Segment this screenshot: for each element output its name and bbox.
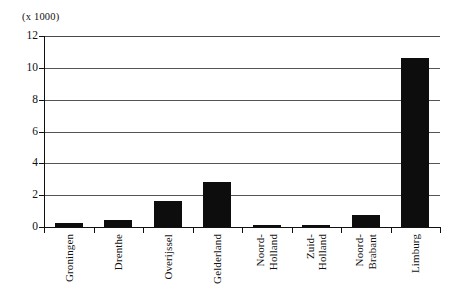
x-category-label: Gelderland <box>193 234 243 307</box>
x-category-label: Noord-Holland <box>242 234 292 307</box>
y-tick-label: 0 <box>32 221 38 233</box>
y-axis-tick-labels: 024681012 <box>0 0 38 307</box>
x-tick-mark <box>44 228 45 233</box>
x-tick-mark <box>242 228 243 233</box>
x-category-label-line: Drenthe <box>112 234 125 270</box>
x-category-label-line: Gelderland <box>211 234 224 284</box>
x-tick-mark <box>143 228 144 233</box>
y-tick-mark <box>39 227 44 228</box>
plot-area <box>44 36 440 227</box>
x-category-label-line: Noord- <box>353 234 366 266</box>
x-category-label-line: Holland <box>267 234 280 270</box>
bar <box>203 182 231 227</box>
y-axis-line <box>44 36 45 228</box>
y-tick-label: 6 <box>32 126 38 138</box>
x-axis-category-labels: GroningenDrentheOverijsselGelderlandNoor… <box>44 234 440 307</box>
y-tick-mark <box>39 68 44 69</box>
x-category-label: Noord-Brabant <box>341 234 391 307</box>
gridline <box>44 132 440 133</box>
x-category-label: Groningen <box>44 234 94 307</box>
y-tick-mark <box>39 132 44 133</box>
x-category-label: Zuid-Holland <box>292 234 342 307</box>
x-category-label-line: Groningen <box>63 234 76 282</box>
gridline <box>44 36 440 37</box>
x-category-label: Limburg <box>391 234 441 307</box>
x-tick-mark <box>292 228 293 233</box>
x-tick-mark <box>341 228 342 233</box>
y-tick-mark <box>39 100 44 101</box>
gridline <box>44 163 440 164</box>
x-tick-mark <box>440 228 441 233</box>
x-category-label: Overijssel <box>143 234 193 307</box>
gridlines <box>44 36 440 227</box>
x-category-label-line: Holland <box>316 234 329 270</box>
y-tick-mark <box>39 36 44 37</box>
x-tick-mark <box>94 228 95 233</box>
gridline <box>44 195 440 196</box>
gridline <box>44 100 440 101</box>
y-tick-label: 2 <box>32 189 38 201</box>
x-category-label-line: Overijssel <box>162 234 175 280</box>
x-category-label: Drenthe <box>94 234 144 307</box>
gridline <box>44 68 440 69</box>
x-tick-mark <box>193 228 194 233</box>
y-tick-mark <box>39 195 44 196</box>
y-tick-label: 10 <box>27 62 39 74</box>
y-tick-label: 12 <box>27 30 39 42</box>
x-tick-mark <box>391 228 392 233</box>
bar <box>401 58 429 227</box>
x-category-label-line: Zuid- <box>304 234 317 259</box>
bar <box>352 215 380 227</box>
y-tick-label: 4 <box>32 157 38 169</box>
y-tick-mark <box>39 163 44 164</box>
x-category-label-line: Noord- <box>254 234 267 266</box>
bar <box>154 201 182 227</box>
bar-chart: (x 1000) 024681012 GroningenDrentheOveri… <box>0 0 464 307</box>
x-category-label-line: Limburg <box>409 234 422 273</box>
bar <box>104 220 132 227</box>
y-tick-label: 8 <box>32 94 38 106</box>
x-category-label-line: Brabant <box>366 234 379 270</box>
